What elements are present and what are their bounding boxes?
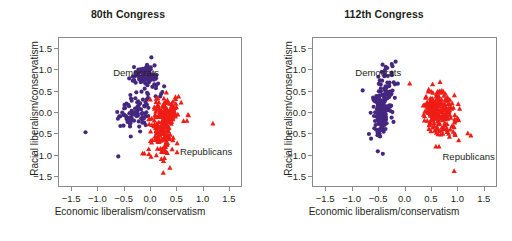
x-tick-label: −0.5 [369, 193, 388, 204]
data-point-democrat [382, 122, 386, 126]
data-point-democrat [380, 116, 384, 120]
data-point-republican [184, 118, 189, 123]
panel-title-left: 80th Congress [0, 8, 256, 20]
data-point-republican [452, 92, 457, 97]
data-point-democrat [376, 149, 380, 153]
data-point-republican [175, 141, 180, 146]
data-point-democrat [377, 132, 381, 136]
data-point-democrat [123, 106, 127, 110]
data-point-democrat [143, 87, 147, 91]
data-point-democrat [145, 91, 149, 95]
data-point-democrat [372, 105, 376, 109]
y-tick-label: −1.0 [26, 149, 52, 160]
x-tick-label: 0.5 [424, 193, 437, 204]
x-tick-mark [176, 187, 177, 191]
data-point-democrat [381, 152, 385, 156]
y-tick-label: 0.5 [280, 85, 306, 96]
x-tick-mark [150, 187, 151, 191]
scatter-points-right [313, 38, 496, 186]
data-point-democrat [372, 114, 376, 118]
x-tick-mark [405, 187, 406, 191]
x-tick-mark [229, 187, 230, 191]
data-point-democrat [160, 90, 164, 94]
x-tick-label: 1.0 [451, 193, 464, 204]
data-point-republican [179, 100, 184, 105]
data-point-democrat [383, 89, 387, 93]
y-tick-label: 0.5 [26, 85, 52, 96]
scatter-points-left [59, 38, 241, 186]
data-point-democrat [388, 109, 392, 113]
data-point-democrat [369, 137, 373, 141]
data-point-democrat [122, 113, 126, 117]
data-point-republican [164, 90, 169, 95]
data-point-republican [437, 79, 442, 84]
data-point-democrat [128, 93, 132, 97]
x-tick-mark [71, 187, 72, 191]
data-point-democrat [376, 100, 380, 104]
x-axis-label-left: Economic liberalism/conservatism [10, 206, 250, 217]
data-point-democrat [382, 98, 386, 102]
data-point-republican [452, 168, 457, 173]
data-point-republican [407, 81, 412, 86]
data-point-republican [161, 170, 166, 175]
data-point-republican [148, 129, 153, 134]
data-point-democrat [393, 96, 397, 100]
panel-80th-congress: 80th Congress Racial liberalism/conserva… [0, 0, 256, 241]
data-point-democrat [135, 100, 139, 104]
data-point-democrat [133, 96, 137, 100]
data-point-democrat [384, 84, 388, 88]
data-point-democrat [378, 93, 382, 97]
data-point-democrat [156, 81, 160, 85]
x-tick-mark [378, 187, 379, 191]
data-point-democrat [129, 134, 133, 138]
x-axis-label-right: Economic liberalism/conservatism [264, 206, 504, 217]
data-point-democrat [134, 90, 138, 94]
series-annotation-democrats: Democrats [113, 67, 159, 78]
data-point-democrat [146, 80, 150, 84]
data-point-democrat [83, 130, 87, 134]
y-tick-label: 1.5 [26, 42, 52, 53]
data-point-republican [174, 150, 179, 155]
data-point-democrat [152, 82, 156, 86]
data-point-democrat [125, 120, 129, 124]
x-tick-label: 1.5 [477, 193, 490, 204]
x-tick-label: −1.0 [342, 193, 361, 204]
x-tick-mark [457, 187, 458, 191]
data-point-republican [436, 144, 441, 149]
data-point-democrat [139, 90, 143, 94]
data-point-republican [452, 112, 457, 117]
data-point-republican [146, 151, 151, 156]
figure-root: 80th Congress Racial liberalism/conserva… [0, 0, 512, 241]
data-point-democrat [385, 104, 389, 108]
data-point-democrat [389, 103, 393, 107]
data-point-democrat [141, 98, 145, 102]
y-tick-label: −1.5 [26, 171, 52, 182]
x-tick-mark [124, 187, 125, 191]
data-point-republican [146, 146, 151, 151]
data-point-republican [154, 153, 159, 158]
data-point-democrat [367, 132, 371, 136]
data-point-republican [167, 165, 172, 170]
x-tick-label: 0.0 [398, 193, 411, 204]
data-point-democrat [389, 116, 393, 120]
data-point-republican [456, 101, 461, 106]
x-tick-label: 0.5 [170, 193, 183, 204]
data-point-democrat [116, 117, 120, 121]
data-point-democrat [369, 111, 373, 115]
x-tick-label: −1.5 [62, 193, 81, 204]
data-point-democrat [376, 106, 380, 110]
data-point-republican [465, 131, 470, 136]
series-annotation-republicans: Republicans [180, 146, 232, 157]
data-point-democrat [138, 129, 142, 133]
data-point-democrat [162, 84, 166, 88]
y-tick-label: −1.5 [280, 171, 306, 182]
data-point-democrat [115, 110, 119, 114]
x-tick-mark [203, 187, 204, 191]
plot-area-right: DemocratsRepublicans [312, 37, 497, 187]
y-tick-label: 1.5 [280, 42, 306, 53]
panel-112th-congress: 112th Congress Racial liberalism/conserv… [256, 0, 512, 241]
data-point-democrat [379, 89, 383, 93]
data-point-democrat [378, 110, 382, 114]
panel-title-right: 112th Congress [256, 8, 512, 20]
data-point-republican [170, 146, 175, 151]
